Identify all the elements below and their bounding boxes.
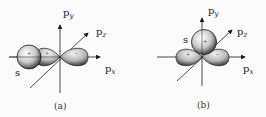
sign-px-right: −: [74, 50, 78, 56]
pz-label: pz: [96, 26, 106, 39]
sign-px-right: −: [215, 51, 219, 57]
s-label: s: [183, 34, 188, 45]
orbital-overlap-diagram: + + − py pz px s (a) + + − py pz px s (b…: [0, 0, 266, 117]
panel-a: + + − py pz px s (a): [9, 7, 115, 111]
pz-label: pz: [237, 26, 247, 39]
caption-a: (a): [54, 101, 66, 111]
s-label: s: [15, 67, 20, 78]
sign-s: +: [203, 38, 207, 44]
sign-px-left: +: [45, 50, 49, 56]
caption-b: (b): [197, 100, 210, 110]
sign-s: +: [27, 50, 31, 56]
px-label: px: [105, 63, 115, 76]
py-label: py: [208, 5, 219, 18]
sign-px-left: +: [186, 51, 190, 57]
px-label: px: [243, 63, 253, 76]
panel-b: + + − py pz px s (b): [157, 5, 253, 110]
py-label: py: [63, 7, 74, 20]
